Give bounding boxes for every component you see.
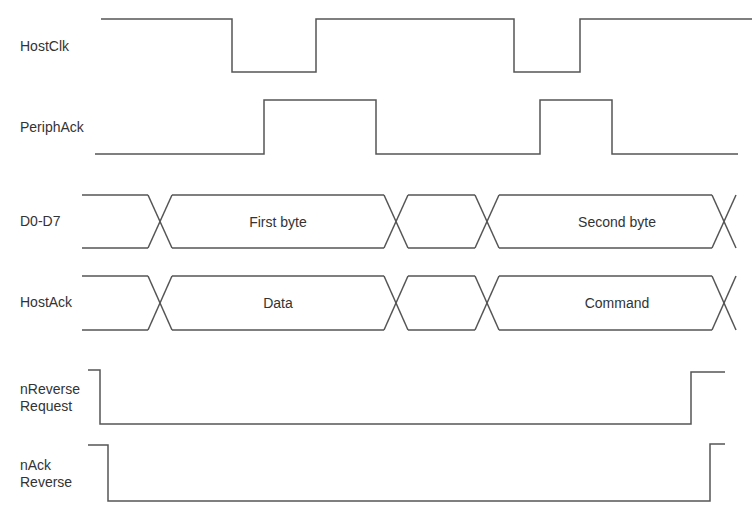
waveform-hostclk bbox=[101, 19, 752, 72]
bus-value-hostack-2: Command bbox=[585, 295, 650, 311]
digital-trace bbox=[95, 100, 738, 154]
bus-value-d0d7-0: First byte bbox=[249, 214, 307, 230]
bus-value-d0d7-2: Second byte bbox=[578, 214, 656, 230]
signal-label-d0d7: D0-D7 bbox=[20, 213, 60, 230]
signal-label-hostclk: HostClk bbox=[20, 38, 69, 55]
timing-waveforms bbox=[0, 0, 753, 515]
digital-trace bbox=[88, 370, 725, 424]
signal-label-nreverserequest: nReverse Request bbox=[20, 381, 80, 415]
signal-label-periphack: PeriphAck bbox=[20, 119, 84, 136]
signal-label-hostack: HostAck bbox=[20, 294, 72, 311]
bus-value-hostack-0: Data bbox=[263, 295, 293, 311]
waveform-nreverserequest bbox=[88, 370, 725, 424]
signal-label-nackreverse: nAck Reverse bbox=[20, 457, 72, 491]
waveform-nackreverse bbox=[88, 444, 725, 501]
digital-trace bbox=[101, 19, 752, 72]
waveform-periphack bbox=[95, 100, 738, 154]
digital-trace bbox=[88, 444, 725, 501]
